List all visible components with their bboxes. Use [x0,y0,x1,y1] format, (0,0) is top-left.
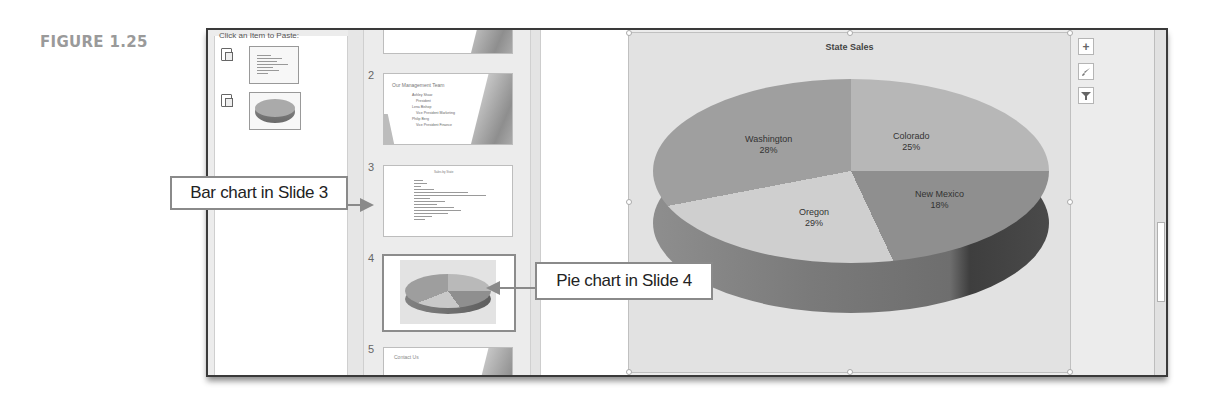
resize-handle[interactable] [847,30,853,36]
chart-area[interactable]: State Sales Washington28% Colorado25% Ne… [628,32,1071,373]
clipboard-item-bar-chart[interactable] [215,46,345,90]
resize-handle[interactable] [847,369,853,375]
slide-title: Contact Us [394,354,419,360]
slide-editing-area [540,30,628,375]
resize-handle[interactable] [626,30,632,36]
chart-filters-button[interactable] [1078,87,1094,104]
slide-bullets: Ashley Shaw President Lena Bishop Vice P… [412,92,455,128]
chart-styles-button[interactable] [1078,63,1094,80]
clipboard-item-icon [221,48,232,61]
clipboard-thumb-pie-chart [249,92,301,130]
clipboard-item-icon [221,94,232,107]
chart-title[interactable]: State Sales [629,42,1070,52]
slide-thumbnails-pane: 2 Our Management Team Ashley Shaw Presid… [364,30,530,375]
clipboard-item-pie-chart[interactable] [215,92,345,136]
pie-chart-top [653,79,1049,263]
slide-number: 3 [368,161,374,173]
resize-handle[interactable] [1067,199,1073,205]
thumbnails-scrollbar[interactable] [530,30,540,375]
slide-title: Sales by State [434,170,453,174]
figure-label: FIGURE 1.25 [40,33,148,51]
vertical-scrollbar[interactable] [1154,30,1166,375]
slide-number: 5 [368,343,374,355]
chart-elements-button[interactable]: + [1078,38,1094,55]
slice-label-new-mexico: New Mexico18% [915,189,964,211]
resize-handle[interactable] [1067,369,1073,375]
arrow-left-icon [486,281,500,295]
slice-label-oregon: Oregon29% [799,207,829,229]
pie-chart-preview [400,260,496,324]
bar-chart-preview [414,180,504,222]
callout-connector [500,287,535,289]
slide-title: Our Management Team [392,82,444,88]
paintbrush-icon [1081,67,1091,77]
resize-handle[interactable] [626,369,632,375]
scrollbar-thumb[interactable] [1157,222,1165,302]
callout-bar-chart: Bar chart in Slide 3 [170,176,348,210]
slice-label-colorado: Colorado25% [893,131,930,153]
powerpoint-window: Click an Item to Paste: 2 Our Management… [206,28,1168,377]
slide-number: 4 [368,252,374,264]
plus-icon: + [1082,41,1089,53]
slice-label-washington: Washington28% [745,134,792,156]
resize-handle[interactable] [626,199,632,205]
slide-number: 2 [368,69,374,81]
clipboard-header: Click an Item to Paste: [219,31,299,40]
clipboard-thumb-bar-chart [249,46,299,84]
callout-pie-chart: Pie chart in Slide 4 [535,262,713,300]
filter-icon [1081,91,1091,101]
resize-handle[interactable] [1067,30,1073,36]
arrow-right-icon [360,198,374,212]
